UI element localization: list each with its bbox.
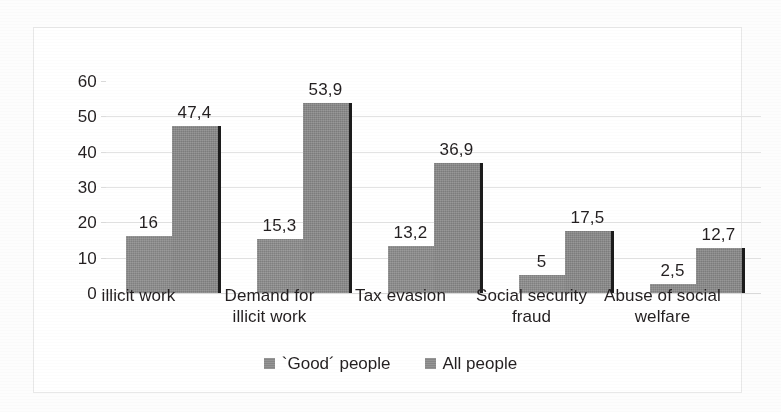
y-tick-mark	[101, 222, 106, 223]
legend-swatch-icon	[264, 358, 275, 369]
bar-value-label: 12,7	[702, 226, 736, 243]
bar-value-label: 47,4	[178, 104, 212, 121]
y-tick-mark	[101, 81, 106, 82]
bar	[172, 126, 218, 293]
gridline	[106, 81, 761, 82]
y-tick-label: 40	[78, 143, 97, 160]
y-tick-label: 30	[78, 179, 97, 196]
bar	[303, 103, 349, 293]
y-tick-label: 20	[78, 214, 97, 231]
chart-frame: 0102030405060 1647,415,353,913,236,9517,…	[33, 27, 742, 393]
scanned-page: 0102030405060 1647,415,353,913,236,9517,…	[0, 0, 781, 412]
y-tick-label: 60	[78, 73, 97, 90]
legend-label: `Good´ people	[282, 355, 391, 372]
y-tick-label: 50	[78, 108, 97, 125]
y-tick-mark	[101, 258, 106, 259]
legend-label: All people	[443, 355, 518, 372]
y-tick-mark	[101, 116, 106, 117]
legend-swatch-icon	[425, 358, 436, 369]
bar-value-label: 13,2	[394, 224, 428, 241]
y-tick-mark	[101, 187, 106, 188]
category-label: Abuse of social welfare	[585, 285, 740, 328]
bar	[434, 163, 480, 293]
bar-value-label: 36,9	[440, 141, 474, 158]
bar-value-label: 53,9	[309, 81, 343, 98]
bar-value-label: 17,5	[571, 209, 605, 226]
bar-value-label: 5	[537, 253, 547, 270]
bar-value-label: 15,3	[263, 217, 297, 234]
plot-area: 0102030405060 1647,415,353,913,236,9517,…	[106, 81, 761, 293]
bar-value-label: 16	[139, 214, 158, 231]
legend-item-all-people[interactable]: All people	[425, 355, 518, 372]
bar-value-label: 2,5	[660, 262, 684, 279]
y-tick-mark	[101, 152, 106, 153]
bar	[565, 231, 611, 293]
y-tick-label: 10	[78, 249, 97, 266]
chart-legend: `Good´ people All people	[0, 355, 781, 372]
legend-item-good-people[interactable]: `Good´ people	[264, 355, 391, 372]
